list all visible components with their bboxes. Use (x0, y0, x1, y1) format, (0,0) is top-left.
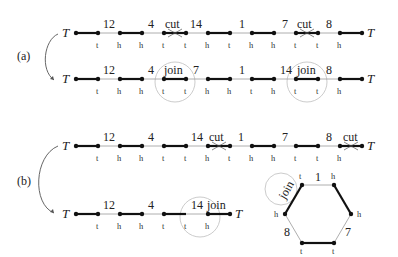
end-label: t (294, 86, 297, 96)
end-label: h (271, 40, 276, 50)
gene-label: 12 (103, 130, 115, 144)
end-label: t (96, 153, 99, 163)
end-label: t (162, 40, 165, 50)
end-label: t (300, 246, 303, 256)
chromosome-row-a-before: T T 12 4 cut 14 1 7 cut 8 t h h t t (62, 17, 375, 50)
gene-label: 4 (148, 198, 154, 212)
gene-label: 8 (326, 63, 332, 77)
telomere-right: T (367, 71, 375, 86)
chromosome-row-b-after-linear: T T 12 4 14 join t h h t t h (62, 197, 243, 237)
transform-arrow-b (39, 146, 58, 213)
end-label: h (117, 40, 122, 50)
end-label: t (184, 221, 187, 231)
end-label: h (249, 153, 254, 163)
telomere-left: T (62, 206, 70, 221)
end-label: t (162, 153, 165, 163)
end-label: t (184, 86, 187, 96)
end-label: t (184, 40, 187, 50)
end-label: h (117, 221, 122, 231)
end-label: t (316, 86, 319, 96)
telomere-right: T (235, 206, 243, 221)
end-label: t (184, 153, 187, 163)
gene-label: 7 (345, 225, 351, 239)
gene-label: 1 (239, 17, 245, 31)
gene-label: 14 (280, 63, 292, 77)
end-label: h (139, 86, 144, 96)
panel-label-a: (a) (17, 49, 30, 63)
end-label: h (139, 153, 144, 163)
end-label: t (162, 86, 165, 96)
gene-label: 7 (193, 63, 199, 77)
cut-label: cut (297, 17, 312, 31)
end-label: h (271, 153, 276, 163)
end-label: t (228, 40, 231, 50)
telomere-right: T (367, 138, 375, 153)
end-label: h (337, 40, 342, 50)
gene-label: 8 (326, 130, 332, 144)
end-label: h (205, 221, 210, 231)
end-label: h (337, 86, 342, 96)
circular-chromosome: join 1 8 7 t h h t t h (265, 170, 362, 256)
transform-arrow-a (45, 34, 58, 80)
end-label: h (227, 86, 232, 96)
end-label: h (205, 40, 210, 50)
chromosome-row-a-after: T T 12 4 join 7 1 14 join 8 t h h t t h (62, 62, 375, 102)
gene-label: 8 (284, 225, 290, 239)
gene-label: 12 (103, 198, 115, 212)
end-label: h (205, 153, 210, 163)
end-label: t (228, 153, 231, 163)
cut-label: cut (209, 130, 224, 144)
gene-label: 4 (148, 17, 154, 31)
end-label: t (299, 171, 302, 181)
end-label: t (294, 153, 297, 163)
end-label: h (274, 209, 279, 219)
end-label: t (294, 40, 297, 50)
end-label: h (357, 209, 362, 219)
gene-label: 1 (238, 130, 244, 144)
panel-label-b: (b) (17, 174, 31, 188)
gene-label: 1 (315, 170, 321, 184)
end-label: t (316, 153, 319, 163)
end-label: h (117, 86, 122, 96)
gene-label: 7 (282, 17, 288, 31)
genome-rearrangement-diagram: (a) T T 12 4 cut 14 1 7 cut 8 t h (0, 0, 398, 257)
gene-label: 7 (282, 130, 288, 144)
end-label: t (96, 40, 99, 50)
cut-label: cut (165, 17, 180, 31)
cut-label: cut (343, 130, 358, 144)
end-label: t (96, 86, 99, 96)
chromosome-row-b-before: T T 12 4 14 cut 1 7 8 cut t h h t t (62, 130, 375, 163)
gene-label: 4 (148, 63, 154, 77)
end-label: t (96, 221, 99, 231)
end-label: t (162, 221, 165, 231)
telomere-right: T (367, 25, 375, 40)
gene-label: 1 (239, 63, 245, 77)
end-label: h (117, 153, 122, 163)
gene-label: 4 (148, 130, 154, 144)
end-label: h (139, 221, 144, 231)
end-label: h (331, 171, 336, 181)
join-label: join (206, 198, 226, 212)
end-label: t (316, 40, 319, 50)
gene-label: 14 (191, 130, 203, 144)
gene-label: 8 (326, 17, 332, 31)
end-label: h (205, 86, 210, 96)
gene-label: 12 (103, 17, 115, 31)
gene-label: 14 (190, 17, 202, 31)
end-label: h (139, 40, 144, 50)
telomere-left: T (62, 25, 70, 40)
end-label: t (332, 246, 335, 256)
gene-label: 12 (103, 63, 115, 77)
end-label: h (337, 153, 342, 163)
join-label: join (163, 63, 183, 77)
join-label: join (296, 63, 316, 77)
end-label: h (271, 86, 276, 96)
end-label: h (249, 40, 254, 50)
end-label: t (250, 86, 253, 96)
telomere-left: T (62, 71, 70, 86)
gene-label: 14 (191, 198, 203, 212)
telomere-left: T (62, 138, 70, 153)
